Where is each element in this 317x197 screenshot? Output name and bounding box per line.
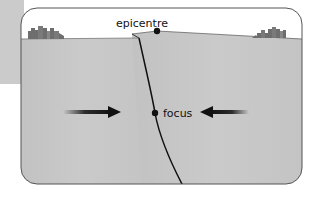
focus-point — [152, 110, 158, 116]
focus-label: focus — [163, 108, 192, 119]
rock-right-block — [132, 31, 302, 184]
epicentre-label: epicentre — [116, 18, 168, 29]
